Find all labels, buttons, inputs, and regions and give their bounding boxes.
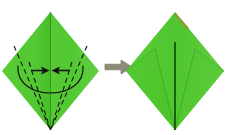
origami-diagram-figure: Origami fold step: fold left and right l… — [0, 0, 234, 135]
step-after-illustration — [117, 0, 234, 135]
step-before-panel: Step before fold — [0, 0, 117, 135]
step-after-panel: Step after fold — [117, 0, 234, 135]
step-before-illustration — [0, 0, 117, 135]
